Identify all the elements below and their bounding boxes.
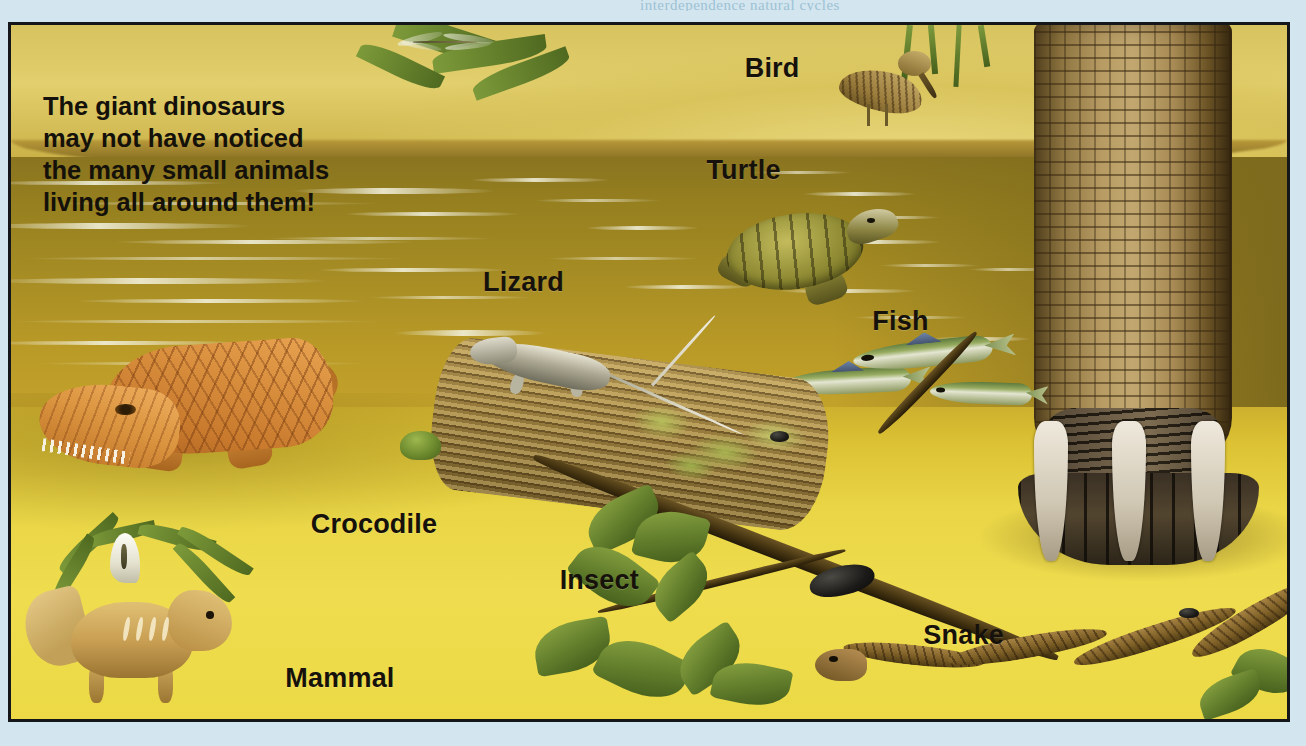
frog	[400, 431, 441, 460]
illustration-artwork: The giant dinosaurs may not have noticed…	[11, 25, 1287, 719]
water-ripple	[317, 268, 508, 272]
fish-eye	[936, 388, 945, 393]
bird-head	[898, 51, 931, 76]
label-lizard: Lizard	[483, 267, 564, 298]
label-bird: Bird	[745, 53, 800, 84]
page-root: interdependence natural cycles	[0, 0, 1306, 746]
mammal	[24, 559, 241, 712]
dragonfly	[387, 28, 502, 63]
turtle-head	[843, 203, 902, 249]
dinosaur-leg	[1013, 25, 1275, 559]
water-ripple	[534, 199, 662, 202]
spider	[1179, 608, 1199, 618]
running-head: interdependence natural cycles	[640, 0, 1060, 11]
water-ripple	[470, 178, 610, 182]
water-ripple	[11, 223, 253, 229]
label-fish: Fish	[872, 306, 928, 337]
bird	[821, 46, 949, 129]
mammal-eye	[206, 611, 214, 619]
illustration-plate: The giant dinosaurs may not have noticed…	[8, 22, 1290, 722]
label-snake: Snake	[923, 620, 1004, 651]
bird-leg	[885, 104, 888, 126]
turtle	[726, 202, 898, 306]
bird-leg	[867, 104, 870, 126]
ant	[770, 431, 789, 442]
dragonfly-body	[413, 41, 477, 43]
fish-eye	[861, 354, 874, 361]
label-insect: Insect	[560, 565, 639, 596]
crocodile-eye	[115, 404, 136, 415]
lizard	[470, 334, 763, 410]
crocodile	[39, 330, 332, 490]
snake-head	[815, 649, 867, 681]
water-ripple	[266, 237, 496, 240]
bird-beak	[918, 72, 938, 99]
caption-text: The giant dinosaurs may not have noticed…	[43, 91, 336, 219]
label-turtle: Turtle	[706, 155, 780, 186]
water-ripple	[11, 320, 381, 323]
label-mammal: Mammal	[285, 663, 394, 694]
mammal-head	[167, 590, 232, 651]
turtle-eye	[867, 218, 876, 223]
dinosaur-leg-shaft	[1034, 25, 1233, 462]
water-ripple	[802, 192, 917, 196]
label-crocodile: Crocodile	[311, 509, 437, 540]
